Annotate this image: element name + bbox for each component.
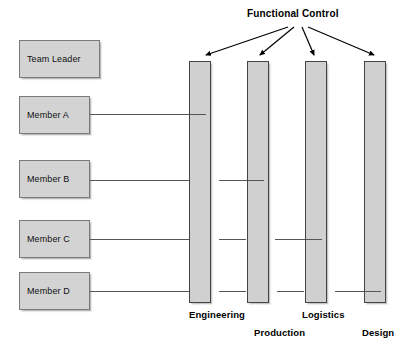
arrow-to-engineering (206, 27, 288, 55)
functional-control-title: Functional Control (247, 8, 339, 19)
arrow-to-logistics (302, 27, 314, 55)
function-label-production: Production (254, 327, 305, 338)
function-label-logistics: Logistics (302, 309, 345, 320)
arrow-to-design (308, 27, 374, 55)
function-label-engineering: Engineering (189, 309, 245, 320)
functional-control-arrows-layer (0, 0, 412, 356)
function-label-design: Design (362, 327, 394, 338)
functional-matrix-diagram: Team Leader Member A Member B Member C M… (0, 0, 412, 356)
